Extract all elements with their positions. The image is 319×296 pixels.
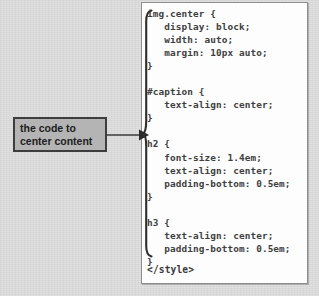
style-closing-tag: </style>	[147, 263, 194, 276]
callout-arrow-icon	[106, 126, 150, 144]
css-code-panel[interactable]: img.center { display: block; width: auto…	[141, 2, 308, 284]
annotation-callout[interactable]: the code to center content	[13, 117, 107, 152]
callout-line-1: the code to	[20, 122, 105, 135]
css-code-body: img.center { display: block; width: auto…	[147, 7, 305, 268]
callout-line-2: center content	[20, 135, 105, 148]
